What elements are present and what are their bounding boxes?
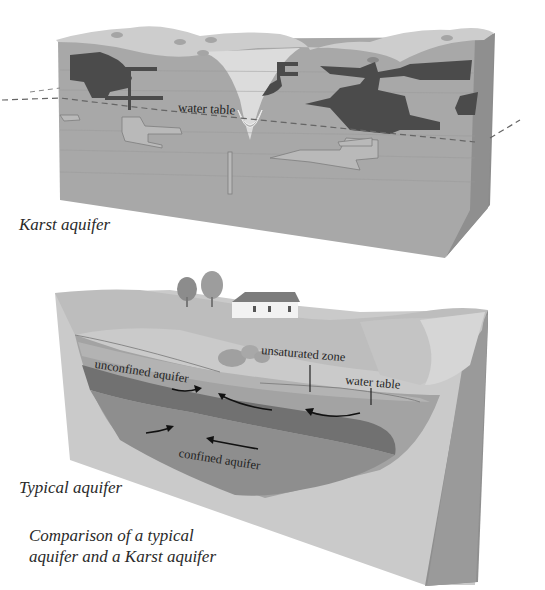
diagram-canvas <box>0 0 545 590</box>
karst-aquifer-caption: Karst aquifer <box>19 215 110 235</box>
figure-caption-line-1: Comparison of a typical <box>29 526 194 546</box>
karst-water-table-label: water table <box>178 100 236 119</box>
figure-caption-line-2: aquifer and a Karst aquifer <box>29 547 216 567</box>
typical-aquifer-caption: Typical aquifer <box>19 478 122 498</box>
house <box>232 292 300 318</box>
